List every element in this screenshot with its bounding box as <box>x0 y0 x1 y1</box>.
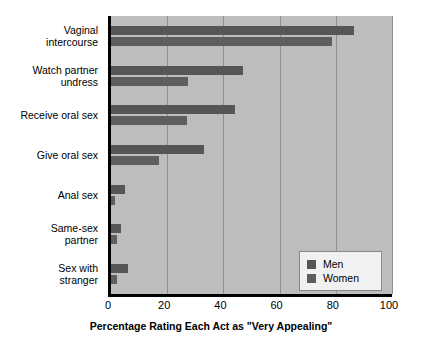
bar-men-4 <box>111 185 125 194</box>
y-axis-category-labels: Vaginal intercourseWatch partner undress… <box>0 16 104 294</box>
bar-women-0 <box>111 37 332 46</box>
legend-item-women: Women <box>307 271 375 285</box>
gridline <box>392 16 393 294</box>
bar-men-0 <box>111 26 354 35</box>
chart-legend: Men Women <box>299 251 382 291</box>
y-axis-label-0: Vaginal intercourse <box>0 24 98 48</box>
gridline <box>280 16 281 294</box>
y-axis-label-2: Receive oral sex <box>0 109 98 121</box>
legend-swatch-men-icon <box>307 260 316 269</box>
x-tick-label-3: 60 <box>270 299 282 311</box>
legend-swatch-women-icon <box>307 274 316 283</box>
gridline <box>167 16 168 294</box>
gridline <box>223 16 224 294</box>
x-axis-line <box>108 294 392 297</box>
y-axis-label-4: Anal sex <box>0 189 98 201</box>
bar-women-6 <box>111 275 117 284</box>
y-axis-label-1: Watch partner undress <box>0 64 98 88</box>
bar-women-4 <box>111 196 115 205</box>
x-tick-label-5: 100 <box>380 299 398 311</box>
x-tick-label-2: 40 <box>214 299 226 311</box>
bar-women-2 <box>111 116 187 125</box>
bar-men-1 <box>111 66 243 75</box>
bar-chart-figure: Vaginal intercourseWatch partner undress… <box>0 0 422 358</box>
bar-men-3 <box>111 145 204 154</box>
legend-label-women: Women <box>323 272 359 284</box>
x-tick-label-1: 20 <box>158 299 170 311</box>
bar-men-5 <box>111 224 121 233</box>
bar-women-1 <box>111 77 188 86</box>
bar-women-3 <box>111 156 159 165</box>
x-axis-tick-labels: 020406080100 <box>0 299 422 315</box>
legend-item-men: Men <box>307 257 375 271</box>
legend-label-men: Men <box>323 258 343 270</box>
bar-men-2 <box>111 105 235 114</box>
x-tick-label-0: 0 <box>105 299 111 311</box>
x-axis-title: Percentage Rating Each Act as "Very Appe… <box>0 320 422 332</box>
x-tick-label-4: 80 <box>327 299 339 311</box>
bar-women-5 <box>111 235 117 244</box>
y-axis-label-6: Sex with stranger <box>0 262 98 286</box>
y-axis-label-3: Give oral sex <box>0 149 98 161</box>
bar-men-6 <box>111 264 128 273</box>
y-axis-label-5: Same-sex partner <box>0 222 98 246</box>
